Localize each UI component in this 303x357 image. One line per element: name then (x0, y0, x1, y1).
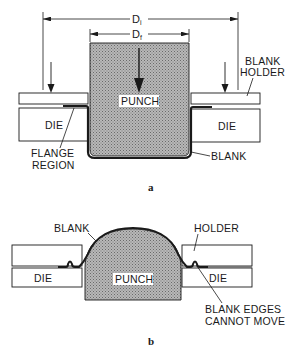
figure-b: DIE DIE PUNCH BLANK HOLDER BLANK EDGES C… (12, 222, 285, 347)
blank-leader (88, 233, 96, 241)
flange-label-line1: FLANGE (31, 147, 74, 159)
blank-label: BLANK (211, 150, 246, 162)
die-left-label: DIE (45, 119, 63, 131)
holder-force-arrow-right (222, 62, 229, 93)
figure-b-caption: b (148, 335, 154, 347)
punch-label: PUNCH (121, 95, 159, 107)
blank-holder-left (19, 93, 88, 104)
blank-holder-right (191, 93, 260, 104)
dimension-df: Df (90, 28, 189, 42)
figure-a-caption: a (148, 181, 154, 193)
blank-label: BLANK (54, 222, 89, 234)
die-right-label: DIE (209, 272, 227, 284)
punch-label: PUNCH (115, 273, 153, 285)
blank-holder-label-line2: HOLDER (240, 66, 285, 78)
figure-a: Di Df DIE DIE (19, 12, 285, 193)
blank-edges-label-line2: CANNOT MOVE (205, 315, 285, 327)
die-right-label: DIE (218, 120, 236, 132)
holder-label: HOLDER (194, 222, 239, 234)
blank-leader (191, 152, 210, 156)
df-label: Df (132, 28, 142, 41)
punch-hemispherical (85, 229, 181, 300)
blank-edges-label-line1: BLANK EDGES (205, 303, 281, 315)
di-label: Di (132, 13, 142, 26)
deep-drawing-diagram: Di Df DIE DIE (0, 0, 303, 357)
die-left-label: DIE (34, 272, 52, 284)
holder-force-arrow-left (48, 62, 55, 93)
flange-label-line2: REGION (32, 159, 75, 171)
